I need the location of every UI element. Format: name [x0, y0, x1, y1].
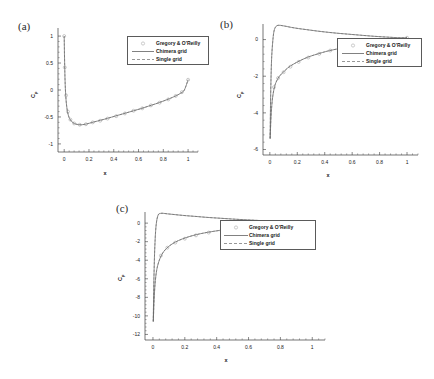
svg-text:0.4: 0.4	[213, 344, 220, 350]
legend-label-experiment: Gregory & O'Reilly	[156, 39, 200, 47]
dashed-line-icon	[130, 56, 156, 63]
legend-row-single: Single grid	[223, 239, 313, 247]
marker-circle-icon	[340, 42, 366, 49]
legend-row-single: Single grid	[130, 55, 206, 63]
legend-row-experiment: Gregory & O'Reilly	[340, 41, 419, 49]
plot-a-y-axis-title: Cp	[30, 80, 38, 98]
legend-label-experiment: Gregory & O'Reilly	[249, 223, 293, 231]
marker-circle-icon	[130, 40, 156, 47]
solid-line-icon	[130, 48, 156, 55]
plot-b-x-axis-title: x	[318, 172, 338, 178]
plot-c-y-axis-title: Cp	[117, 263, 125, 281]
legend-label-chimera: Chimera grid	[249, 231, 280, 239]
svg-text:0: 0	[255, 36, 258, 42]
svg-text:0.5: 0.5	[46, 60, 53, 66]
svg-text:1: 1	[50, 33, 53, 39]
plot-b-y-axis-title: Cp	[236, 80, 244, 98]
svg-text:-4: -4	[254, 110, 259, 116]
svg-text:0.4: 0.4	[321, 159, 328, 165]
legend-label-chimera: Chimera grid	[156, 47, 187, 55]
svg-text:0.6: 0.6	[349, 159, 356, 165]
svg-text:0.2: 0.2	[181, 344, 188, 350]
dashed-line-icon	[223, 240, 249, 247]
solid-line-icon	[223, 232, 249, 239]
svg-text:0.2: 0.2	[85, 156, 92, 162]
svg-text:0.6: 0.6	[135, 156, 142, 162]
svg-text:1: 1	[187, 156, 190, 162]
svg-text:0.2: 0.2	[294, 159, 301, 165]
svg-text:0.4: 0.4	[110, 156, 117, 162]
svg-text:1: 1	[311, 344, 314, 350]
svg-text:-10: -10	[133, 313, 140, 319]
svg-text:-6: -6	[136, 276, 141, 282]
svg-text:-8: -8	[136, 294, 141, 300]
legend-row-single: Single grid	[340, 57, 419, 65]
plot-c-svg: -12-10-8-6-4-2000.20.40.60.81	[90, 190, 350, 379]
panel-b: (b) -6-4-2000.20.40.60.81 Cp x Gregory &…	[215, 0, 434, 190]
svg-text:0: 0	[50, 87, 53, 93]
panel-a: (a) -1-0.500.5100.20.40.60.81 Cp x Grego…	[0, 0, 215, 190]
svg-text:0.8: 0.8	[376, 159, 383, 165]
svg-text:-4: -4	[136, 257, 141, 263]
dashed-line-icon	[340, 58, 366, 65]
svg-text:-6: -6	[254, 146, 259, 152]
svg-text:0.6: 0.6	[245, 344, 252, 350]
panel-c: (c) -12-10-8-6-4-2000.20.40.60.81 Cp x G…	[90, 190, 350, 379]
plot-c-legend: Gregory & O'Reilly Chimera grid Single g…	[220, 220, 316, 250]
svg-text:-0.5: -0.5	[44, 114, 53, 120]
plot-b-canvas: -6-4-2000.20.40.60.81	[215, 0, 434, 190]
legend-row-experiment: Gregory & O'Reilly	[223, 223, 313, 231]
plot-c-canvas: -12-10-8-6-4-2000.20.40.60.81	[90, 190, 350, 379]
legend-label-single: Single grid	[156, 55, 182, 63]
svg-text:-12: -12	[133, 331, 140, 337]
svg-text:0: 0	[63, 156, 66, 162]
svg-text:-1: -1	[49, 141, 54, 147]
svg-text:0: 0	[152, 344, 155, 350]
marker-circle-icon	[223, 224, 249, 231]
plot-b-legend: Gregory & O'Reilly Chimera grid Single g…	[337, 38, 422, 67]
plot-c-x-axis-title: x	[216, 357, 236, 363]
svg-text:-2: -2	[254, 73, 259, 79]
legend-row-chimera: Chimera grid	[340, 49, 419, 57]
svg-text:1: 1	[406, 159, 409, 165]
legend-label-chimera: Chimera grid	[366, 49, 397, 57]
legend-label-single: Single grid	[249, 239, 275, 247]
solid-line-icon	[340, 50, 366, 57]
legend-row-chimera: Chimera grid	[130, 47, 206, 55]
svg-text:0: 0	[137, 220, 140, 226]
svg-text:-2: -2	[136, 238, 141, 244]
legend-label-single: Single grid	[366, 57, 392, 65]
svg-text:0.8: 0.8	[277, 344, 284, 350]
legend-label-experiment: Gregory & O'Reilly	[366, 41, 410, 49]
svg-text:0: 0	[268, 159, 271, 165]
legend-row-experiment: Gregory & O'Reilly	[130, 39, 206, 47]
plot-a-x-axis-title: x	[95, 170, 115, 176]
plot-a-legend: Gregory & O'Reilly Chimera grid Single g…	[127, 36, 209, 65]
svg-text:0.8: 0.8	[160, 156, 167, 162]
legend-row-chimera: Chimera grid	[223, 231, 313, 239]
plot-b-svg: -6-4-2000.20.40.60.81	[215, 0, 434, 190]
